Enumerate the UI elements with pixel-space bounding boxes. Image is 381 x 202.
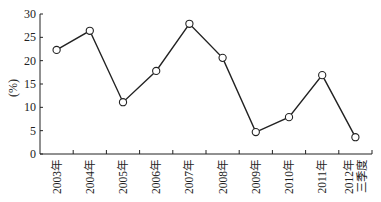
y-tick-label: 10 — [24, 100, 36, 114]
y-tick-label: 30 — [24, 7, 36, 21]
x-tick-label: 2004年 — [83, 160, 96, 194]
data-point-marker — [186, 20, 193, 27]
data-point-marker — [119, 99, 126, 106]
data-point-marker — [252, 128, 259, 135]
data-point-marker — [319, 72, 326, 79]
data-point-marker — [153, 67, 160, 74]
x-tick-label: 2011年 — [315, 160, 328, 194]
x-tick-label: 2010年 — [282, 160, 295, 194]
x-tick-label: 2008年 — [216, 160, 229, 194]
x-tick-label: 三季度 — [355, 159, 368, 193]
x-tick-label: 2007年 — [182, 160, 195, 194]
x-axis-ticks: 2003年2004年2005年2006年2007年2008年2009年2010年… — [50, 150, 372, 194]
series-line — [57, 24, 356, 137]
x-tick-label: 2006年 — [149, 160, 162, 194]
data-point-marker — [219, 54, 226, 61]
x-tick-label: 2012年 — [342, 160, 355, 194]
y-axis-label: (%) — [6, 79, 20, 97]
y-tick-label: 0 — [30, 147, 36, 161]
axes — [40, 14, 372, 154]
data-point-marker — [285, 114, 292, 121]
chart-canvas: 051015202530 2003年2004年2005年2006年2007年20… — [0, 0, 381, 202]
data-point-marker — [53, 46, 60, 53]
y-tick-label: 20 — [24, 54, 36, 68]
x-tick-label: 2005年 — [116, 160, 129, 194]
x-tick-label: 2003年 — [50, 160, 63, 194]
data-series — [53, 20, 359, 141]
y-tick-label: 15 — [24, 77, 36, 91]
y-tick-label: 5 — [30, 124, 36, 138]
x-tick-label: 2009年 — [249, 160, 262, 194]
line-chart: 051015202530 2003年2004年2005年2006年2007年20… — [0, 0, 381, 202]
data-point-marker — [352, 134, 359, 141]
data-point-marker — [86, 27, 93, 34]
y-tick-label: 25 — [24, 30, 36, 44]
